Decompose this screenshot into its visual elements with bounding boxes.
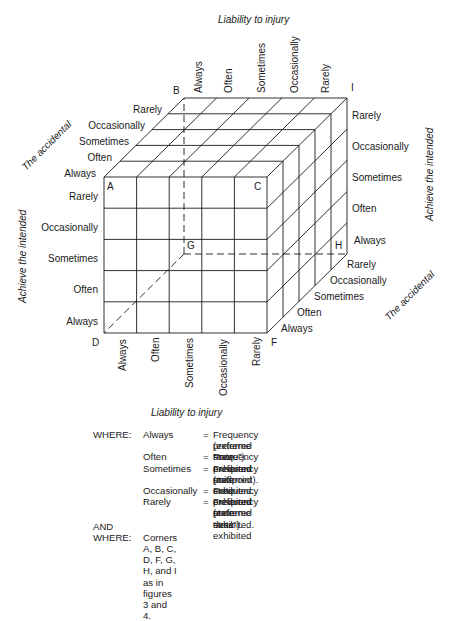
right-diag-label-rarely: Rarely [347, 259, 376, 270]
corner-i: I [351, 82, 354, 93]
legend-equals: = [203, 451, 209, 462]
legend-corners-note: Corners A, B, C, D, F, G, H, and I as in… [143, 532, 177, 621]
corner-h: H [335, 240, 342, 251]
right-vertical-axis-title: Achieve the intended [424, 128, 435, 221]
left-vertical-axis-title: Achieve the intended [17, 210, 28, 303]
bottom-axis-title: Liability to injury [151, 407, 222, 418]
right-diag-label-often: Often [297, 307, 321, 318]
corner-g: G [187, 240, 195, 251]
legend-term: Occasionally [143, 485, 197, 496]
legend-term: Rarely [143, 496, 171, 507]
corner-a: A [107, 181, 114, 192]
left-diag-label-always: Always [64, 168, 96, 179]
right-diag-label-always: Always [281, 323, 313, 334]
top-label-sometimes: Sometimes [256, 43, 267, 93]
front-face-grid [104, 177, 267, 333]
bottom-label-sometimes: Sometimes [184, 338, 195, 388]
bottom-label-always: Always [117, 339, 128, 371]
legend-equals: = [203, 463, 209, 474]
left-label-rarely: Rarely [69, 191, 98, 202]
left-label-always: Always [66, 316, 98, 327]
legend-where-label: WHERE: [93, 429, 131, 440]
left-label-occasionally: Occasionally [41, 222, 98, 233]
legend-equals: = [203, 496, 209, 507]
legend-term: Always [143, 429, 173, 440]
top-label-occasionally: Occasionally [289, 36, 300, 93]
right-label-often: Often [352, 203, 376, 214]
right-label-occasionally: Occasionally [352, 141, 409, 152]
corner-b: B [173, 85, 180, 96]
corner-d: D [92, 337, 99, 348]
left-label-often: Often [74, 284, 98, 295]
left-diag-label-sometimes: Sometimes [79, 136, 129, 147]
legend-equals: = [203, 429, 209, 440]
left-diag-label-rarely: Rarely [133, 104, 162, 115]
top-label-always: Always [193, 61, 204, 93]
left-label-sometimes: Sometimes [48, 253, 98, 264]
right-label-always: Always [354, 235, 386, 246]
hidden-edges [104, 98, 347, 333]
bottom-label-rarely: Rarely [251, 337, 262, 366]
left-diag-label-occasionally: Occasionally [88, 120, 145, 131]
bottom-label-occasionally: Occasionally [218, 339, 229, 396]
left-diag-label-often: Often [88, 152, 112, 163]
right-label-rarely: Rarely [352, 110, 381, 121]
legend-term: Often [143, 451, 166, 462]
legend-where2-label: WHERE: [93, 532, 131, 543]
legend-equals: = [203, 485, 209, 496]
legend-definition: (extreme “less”). [213, 507, 251, 529]
right-diag-label-sometimes: Sometimes [314, 291, 364, 302]
corner-f: F [271, 337, 277, 348]
legend-term: Sometimes [143, 463, 191, 474]
top-label-rarely: Rarely [320, 64, 331, 93]
right-diag-label-occasionally: Occasionally [330, 275, 387, 286]
legend-and-label: AND [93, 521, 113, 532]
right-label-sometimes: Sometimes [352, 172, 402, 183]
top-axis-title: Liability to injury [218, 14, 289, 25]
top-label-often: Often [223, 69, 234, 93]
corner-c: C [254, 181, 261, 192]
bottom-label-often: Often [150, 338, 161, 362]
legend-definition: (midpoint). [213, 474, 258, 485]
